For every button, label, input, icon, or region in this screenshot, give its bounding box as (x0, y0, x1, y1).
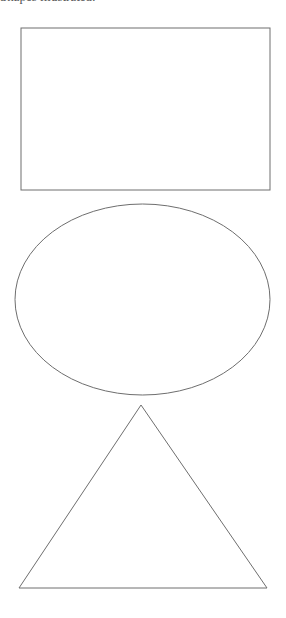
triangle-shape (19, 405, 267, 588)
ellipse-shape (15, 204, 270, 395)
shapes-canvas (0, 0, 286, 618)
rectangle-shape (21, 28, 270, 190)
